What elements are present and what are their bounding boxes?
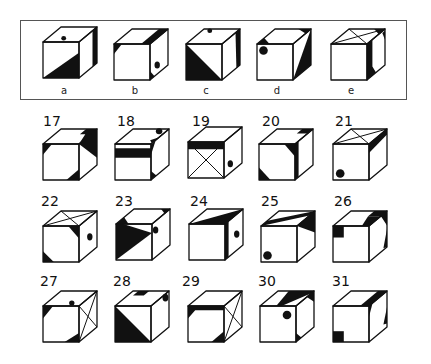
question-cube-18[interactable] <box>111 125 173 184</box>
cube-face-front <box>189 224 225 260</box>
cube-face-front <box>114 44 150 80</box>
dot-icon <box>263 251 272 260</box>
option-label-a: a <box>61 85 67 96</box>
option-cube-e[interactable] <box>327 25 389 84</box>
option-label-e: e <box>348 85 354 96</box>
question-cube-27[interactable] <box>39 287 101 346</box>
option-label-b: b <box>132 85 138 96</box>
question-cube-19[interactable] <box>184 123 246 182</box>
cube-face-front <box>260 306 296 342</box>
option-cube-a[interactable] <box>39 23 101 82</box>
dot-icon <box>228 160 233 167</box>
dot-icon <box>69 300 74 305</box>
cube-puzzle-page: abcde 171819202122232425262728293031 <box>0 0 431 364</box>
option-label-c: c <box>203 85 209 96</box>
question-cube-21[interactable] <box>329 125 391 184</box>
question-cube-17[interactable] <box>39 125 101 184</box>
dot-icon <box>155 61 160 68</box>
shaded-region-front <box>333 226 344 238</box>
dot-icon <box>61 36 66 41</box>
question-cube-28[interactable] <box>111 287 173 346</box>
option-label-d: d <box>274 85 280 96</box>
question-cube-29[interactable] <box>184 287 246 346</box>
question-cube-26[interactable] <box>329 207 391 266</box>
dot-icon <box>259 46 268 55</box>
question-cube-31[interactable] <box>329 287 391 346</box>
option-cube-d[interactable] <box>253 25 315 84</box>
shaded-region-front <box>115 148 151 157</box>
option-cube-c[interactable] <box>182 25 244 84</box>
dot-icon <box>234 230 239 237</box>
option-cube-b[interactable] <box>110 25 172 84</box>
dot-icon <box>336 169 345 178</box>
question-cube-23[interactable] <box>112 205 174 264</box>
question-cube-25[interactable] <box>257 207 319 266</box>
question-cube-24[interactable] <box>185 205 247 264</box>
dot-icon <box>87 233 92 240</box>
dot-icon <box>283 311 292 320</box>
question-cube-22[interactable] <box>39 207 101 266</box>
shaded-region-right <box>93 27 98 67</box>
cube-face-front <box>331 44 367 80</box>
shaded-region-front <box>188 142 224 149</box>
question-cube-20[interactable] <box>255 125 317 184</box>
dot-icon <box>153 226 158 233</box>
question-cube-30[interactable] <box>256 287 318 346</box>
shaded-region-front <box>333 331 344 342</box>
